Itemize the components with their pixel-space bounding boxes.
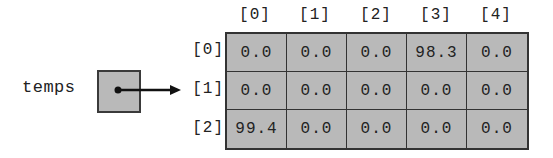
- array-cell: 0.0: [347, 72, 407, 110]
- column-header-0: [0]: [225, 6, 285, 24]
- array-cell: 0.0: [467, 110, 527, 148]
- array-cell: 0.0: [347, 110, 407, 148]
- array-cell: 0.0: [407, 72, 467, 110]
- column-header-1: [1]: [285, 6, 345, 24]
- array-cell: 0.0: [467, 34, 527, 72]
- row-header-2: [2]: [180, 119, 224, 137]
- array-cell: 0.0: [287, 72, 347, 110]
- row-header-0: [0]: [180, 41, 224, 59]
- column-header-4: [4]: [466, 6, 526, 24]
- column-header-2: [2]: [346, 6, 406, 24]
- array-cell: 0.0: [227, 34, 287, 72]
- row-header-1: [1]: [180, 80, 224, 98]
- array-cell: 0.0: [467, 72, 527, 110]
- array-cell: 99.4: [227, 110, 287, 148]
- array-cell: 0.0: [227, 72, 287, 110]
- array-cell: 0.0: [287, 110, 347, 148]
- array-cell: 0.0: [287, 34, 347, 72]
- array-cell: 98.3: [407, 34, 467, 72]
- column-header-3: [3]: [406, 6, 466, 24]
- array-grid: 0.0 0.0 0.0 98.3 0.0 0.0 0.0 0.0 0.0 0.0…: [225, 32, 529, 150]
- array-cell: 0.0: [347, 34, 407, 72]
- array-cell: 0.0: [407, 110, 467, 148]
